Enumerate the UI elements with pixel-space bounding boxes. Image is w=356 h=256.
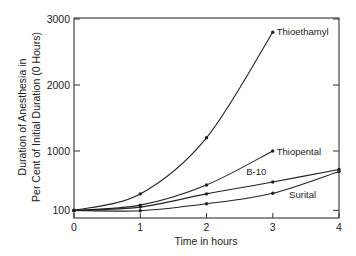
data-point	[271, 149, 274, 152]
y-tick-label: 3000	[47, 13, 71, 25]
series-surital: Surital	[72, 170, 340, 213]
data-point	[271, 180, 274, 183]
series-thioethamyl: Thioethamyl	[72, 26, 328, 212]
data-point	[205, 183, 208, 186]
x-tick-label: 0	[71, 221, 77, 233]
line-chart: 100100020003000 01234 ThioethamylThiopen…	[0, 0, 356, 256]
data-point	[205, 202, 208, 205]
series-line	[74, 32, 273, 210]
y-tick-label: 1000	[47, 145, 71, 157]
series-label: Surital	[289, 189, 316, 200]
data-point	[205, 136, 208, 139]
y-axis: 100100020003000	[47, 13, 339, 216]
series-label: B-10	[246, 166, 266, 177]
series-label: Thiopental	[277, 146, 321, 157]
y-axis-title-line2: Per Cent of Initial Duration (0 Hours)	[30, 32, 42, 202]
x-axis: 01234	[71, 213, 342, 233]
x-axis-title: Time in hours	[174, 235, 237, 247]
data-point	[271, 192, 274, 195]
data-point	[139, 209, 142, 212]
data-point	[72, 209, 75, 212]
data-point	[139, 205, 142, 208]
series-thiopental: Thiopental	[72, 146, 321, 212]
series-label: Thioethamyl	[277, 26, 329, 37]
series-group: ThioethamylThiopentalB-10Surital	[72, 26, 340, 212]
x-tick-label: 2	[204, 221, 210, 233]
y-tick-label: 2000	[47, 79, 71, 91]
y-tick-label: 100	[52, 204, 70, 216]
y-axis-title-line1: Duration of Anesthesia in	[16, 58, 28, 175]
plot-border	[74, 18, 339, 218]
x-tick-label: 1	[137, 221, 143, 233]
x-tick-label: 4	[336, 221, 342, 233]
data-point	[205, 192, 208, 195]
data-point	[337, 170, 340, 173]
data-point	[139, 192, 142, 195]
x-tick-label: 3	[270, 221, 276, 233]
plot-frame	[74, 18, 339, 218]
data-point	[271, 31, 274, 34]
